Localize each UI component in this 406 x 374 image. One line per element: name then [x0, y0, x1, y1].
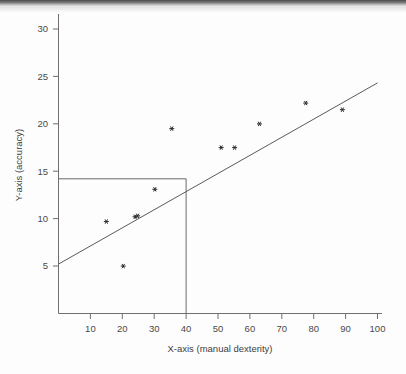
x-tick-label-40: 40 — [181, 323, 192, 334]
data-point-marker — [169, 126, 174, 130]
y-tick-label-15: 15 — [37, 166, 48, 177]
plot-canvas: 30 25 20 15 10 5 10 20 30 40 50 — [0, 0, 406, 374]
x-axis-title: X-axis (manual dexterity) — [167, 343, 272, 354]
scatter-plot-figure: 30 25 20 15 10 5 10 20 30 40 50 — [0, 0, 406, 374]
y-axis-title: Y-axis (accuracy) — [13, 129, 24, 202]
data-point-marker — [152, 187, 157, 191]
y-tick-label-20: 20 — [37, 118, 48, 129]
y-tick-label-10: 10 — [37, 213, 48, 224]
x-tick-label-90: 90 — [340, 323, 351, 334]
regression-line — [59, 83, 378, 264]
x-tick-label-20: 20 — [117, 323, 128, 334]
data-point-markers — [104, 101, 345, 268]
scan-edge-artifact-fade — [0, 7, 406, 13]
x-tick-label-70: 70 — [277, 323, 288, 334]
prediction-reference-box — [59, 179, 187, 314]
scan-edge-artifact — [0, 0, 406, 7]
x-tick-label-60: 60 — [245, 323, 256, 334]
x-tick-label-30: 30 — [149, 323, 160, 334]
data-point-marker — [121, 264, 126, 268]
data-point-marker — [219, 145, 224, 149]
x-axis: 10 20 30 40 50 60 70 80 90 100 — [59, 314, 386, 335]
data-point-marker — [257, 122, 262, 126]
x-tick-label-80: 80 — [308, 323, 319, 334]
y-tick-label-25: 25 — [37, 71, 48, 82]
data-point-marker — [232, 145, 237, 149]
data-point-marker — [303, 101, 308, 105]
x-tick-label-10: 10 — [85, 323, 96, 334]
y-axis: 30 25 20 15 10 5 — [37, 14, 58, 314]
data-point-marker — [104, 219, 109, 223]
y-tick-label-5: 5 — [43, 260, 48, 271]
x-tick-label-100: 100 — [370, 323, 386, 334]
data-point-marker — [340, 108, 345, 112]
x-tick-label-50: 50 — [213, 323, 224, 334]
y-tick-label-30: 30 — [37, 23, 48, 34]
